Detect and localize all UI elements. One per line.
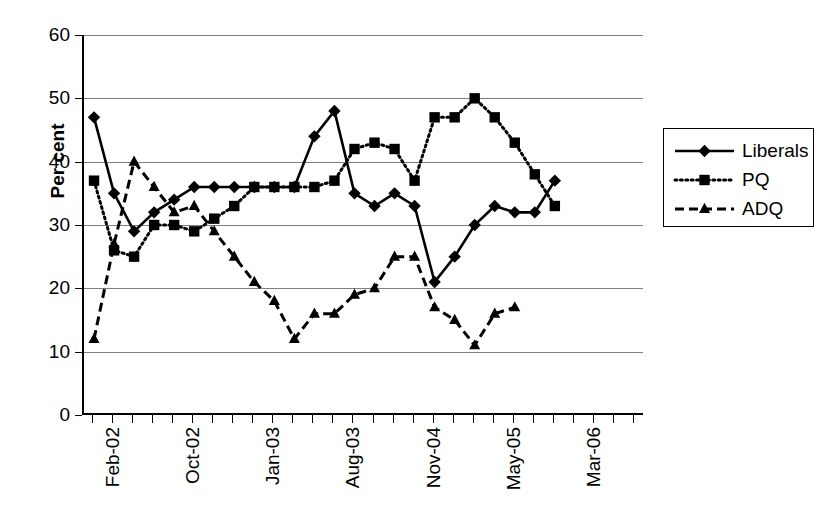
data-point-marker bbox=[429, 112, 439, 122]
data-point-marker bbox=[349, 144, 359, 154]
x-axis-tick-mark bbox=[373, 415, 374, 423]
y-axis-tick-label: 30 bbox=[24, 215, 70, 234]
data-point-marker bbox=[249, 182, 259, 192]
chart-container: Per cent 0102030405060 Feb-02Oct-02Jan-0… bbox=[0, 0, 822, 513]
x-axis-tick-label: Mar-06 bbox=[583, 427, 605, 487]
legend-label: Liberals bbox=[742, 141, 809, 161]
y-axis-tick-label: 20 bbox=[24, 278, 70, 297]
y-axis-tick-mark bbox=[75, 415, 82, 416]
x-axis-tick-mark bbox=[172, 415, 173, 423]
data-point-marker bbox=[208, 181, 220, 193]
data-point-marker bbox=[388, 187, 400, 199]
data-point-marker bbox=[510, 137, 520, 147]
data-point-marker bbox=[408, 200, 420, 212]
data-point-marker bbox=[348, 187, 360, 199]
x-axis-tick-mark bbox=[312, 415, 313, 423]
data-point-marker bbox=[229, 201, 239, 211]
data-point-marker bbox=[129, 155, 140, 165]
x-axis-tick-mark bbox=[453, 415, 454, 423]
x-axis-tick-mark bbox=[212, 415, 213, 423]
x-axis-tick-mark bbox=[112, 415, 113, 423]
legend-item-adq[interactable]: ADQ bbox=[664, 194, 813, 223]
data-point-marker bbox=[409, 175, 419, 185]
y-axis-tick-mark bbox=[75, 35, 82, 36]
data-point-marker bbox=[89, 333, 100, 343]
legend-label: PQ bbox=[742, 170, 769, 190]
legend-symbol-diamond-icon bbox=[673, 141, 736, 161]
data-point-marker bbox=[509, 301, 520, 311]
data-point-marker bbox=[209, 225, 220, 235]
x-axis-tick-label: Feb-02 bbox=[102, 427, 124, 487]
legend: LiberalsPQADQ bbox=[663, 128, 814, 227]
x-axis-tick-mark bbox=[132, 415, 133, 423]
x-axis-tick-mark bbox=[613, 415, 614, 423]
x-axis-tick-mark bbox=[433, 415, 434, 423]
x-axis-tick-label: Jan-03 bbox=[262, 427, 284, 485]
x-axis-tick-mark bbox=[633, 415, 634, 423]
data-point-marker bbox=[698, 144, 710, 156]
data-point-marker bbox=[188, 181, 200, 193]
x-axis-tick-mark bbox=[92, 415, 93, 423]
y-axis-tick-label: 40 bbox=[24, 152, 70, 171]
data-point-marker bbox=[309, 182, 319, 192]
x-axis-tick-mark bbox=[533, 415, 534, 423]
data-point-marker bbox=[469, 339, 480, 349]
data-point-marker bbox=[490, 112, 500, 122]
data-point-marker bbox=[368, 200, 380, 212]
data-point-marker bbox=[88, 111, 100, 123]
y-axis-tick-label: 50 bbox=[24, 88, 70, 107]
x-axis-tick-mark bbox=[292, 415, 293, 423]
legend-label: ADQ bbox=[742, 199, 783, 219]
data-point-marker bbox=[369, 282, 380, 292]
data-point-marker bbox=[168, 193, 180, 205]
x-axis-tick-mark bbox=[413, 415, 414, 423]
plot-area bbox=[82, 35, 643, 415]
x-axis-tick-mark bbox=[573, 415, 574, 423]
x-axis-tick-mark bbox=[252, 415, 253, 423]
data-point-marker bbox=[189, 226, 199, 236]
y-axis-tick-label: 60 bbox=[24, 25, 70, 44]
data-point-marker bbox=[209, 213, 219, 223]
y-axis-tick-label: 0 bbox=[24, 405, 70, 424]
x-axis-tick-mark bbox=[192, 415, 193, 423]
x-axis-tick-mark bbox=[272, 415, 273, 423]
data-point-marker bbox=[699, 174, 709, 184]
x-axis-tick-mark bbox=[152, 415, 153, 423]
series-lines bbox=[84, 35, 645, 415]
series-liberals bbox=[88, 105, 561, 288]
data-point-marker bbox=[389, 144, 399, 154]
x-axis-tick-label: May-05 bbox=[503, 427, 525, 490]
data-point-marker bbox=[228, 181, 240, 193]
data-point-marker bbox=[129, 251, 139, 261]
data-point-marker bbox=[89, 175, 99, 185]
x-axis-tick-label: Nov-04 bbox=[423, 427, 445, 488]
x-axis-tick-mark bbox=[513, 415, 514, 423]
legend-symbol-square-icon bbox=[673, 170, 736, 190]
y-axis-tick-label: 10 bbox=[24, 342, 70, 361]
x-axis-tick-label: Aug-03 bbox=[342, 427, 364, 488]
legend-item-pq[interactable]: PQ bbox=[664, 165, 813, 194]
legend-symbol-triangle-icon bbox=[673, 199, 736, 219]
data-point-marker bbox=[469, 93, 479, 103]
data-point-marker bbox=[449, 112, 459, 122]
x-axis-tick-mark bbox=[232, 415, 233, 423]
data-point-marker bbox=[529, 206, 541, 218]
x-axis-tick-mark bbox=[473, 415, 474, 423]
y-axis-tick-mark bbox=[75, 225, 82, 226]
data-point-marker bbox=[149, 220, 159, 230]
data-point-marker bbox=[549, 174, 561, 186]
y-axis-tick-mark bbox=[75, 98, 82, 99]
x-axis-tick-label: Oct-02 bbox=[182, 427, 204, 484]
data-point-marker bbox=[269, 182, 279, 192]
data-point-marker bbox=[309, 307, 320, 317]
data-point-marker bbox=[289, 182, 299, 192]
legend-item-liberals[interactable]: Liberals bbox=[664, 136, 813, 165]
x-axis-tick-mark bbox=[332, 415, 333, 423]
series-pq bbox=[89, 93, 560, 262]
data-point-marker bbox=[429, 301, 440, 311]
data-point-marker bbox=[449, 314, 460, 324]
data-point-marker bbox=[550, 201, 560, 211]
data-point-marker bbox=[189, 200, 200, 210]
data-point-marker bbox=[509, 206, 521, 218]
x-axis-tick-mark bbox=[352, 415, 353, 423]
